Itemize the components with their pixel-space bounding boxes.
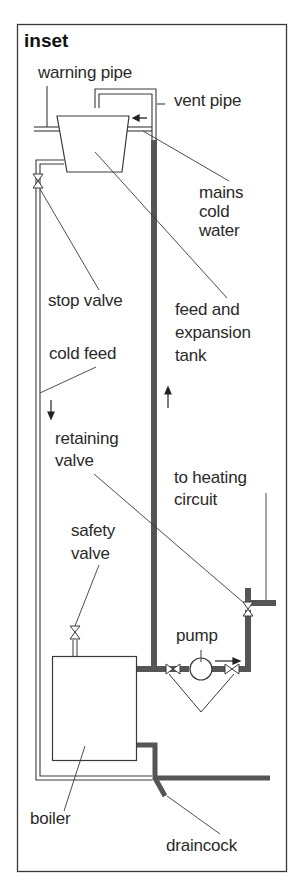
label-boiler: boiler — [30, 809, 70, 828]
inset-title: inset — [24, 30, 68, 52]
boiler — [53, 657, 137, 761]
label-to-heating-circuit: to heating circuit — [174, 467, 247, 511]
label-mains-cold-water: mains cold water — [199, 183, 243, 240]
warning-pipe — [34, 86, 60, 131]
arrow-left-icon — [133, 115, 147, 121]
label-line: to heating — [174, 467, 247, 489]
label-line: valve — [71, 542, 115, 565]
label-line: circuit — [174, 489, 247, 511]
boiler-flow-connection — [137, 666, 167, 672]
label-line: valve — [55, 450, 118, 472]
label-line: cold — [199, 202, 243, 221]
return-pipe — [137, 745, 270, 778]
retaining-valve-icon — [243, 602, 253, 616]
mains-cold-water-pipe — [127, 127, 152, 131]
label-line: water — [199, 221, 243, 240]
label-draincock: draincock — [166, 836, 237, 855]
label-line: tank — [175, 344, 251, 367]
arrow-down-icon — [48, 400, 54, 419]
label-cold-feed: cold feed — [49, 344, 116, 363]
label-retaining-valve: retaining valve — [55, 428, 118, 472]
label-line: expansion — [175, 321, 251, 344]
label-stop-valve: stop valve — [48, 291, 123, 310]
label-line: feed and — [175, 298, 251, 321]
label-line: retaining — [55, 428, 118, 450]
label-safety-valve: safety valve — [71, 519, 115, 565]
central-heating-inset-diagram: inset warning pipe vent pipe mains cold … — [0, 0, 295, 892]
label-line: safety — [71, 519, 115, 542]
stop-valve-icon — [33, 174, 43, 188]
label-vent-pipe: vent pipe — [174, 91, 241, 110]
draincock-icon — [155, 778, 165, 796]
label-feed-and-expansion-tank: feed and expansion tank — [175, 298, 251, 367]
pump-isolating-valve-left-icon — [166, 664, 180, 674]
label-line: mains — [199, 183, 243, 202]
pump-isolating-valve-right-icon — [225, 664, 239, 674]
feed-and-expansion-tank — [57, 116, 129, 172]
safety-valve-icon — [70, 626, 80, 656]
diagram-canvas — [0, 0, 295, 892]
arrow-up-icon — [165, 387, 171, 408]
label-pump: pump — [176, 626, 218, 645]
label-warning-pipe: warning pipe — [38, 63, 132, 82]
arrow-right-icon — [215, 658, 240, 664]
